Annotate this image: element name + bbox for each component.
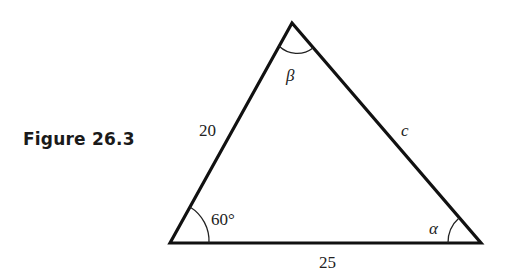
angle-arc-alpha xyxy=(448,218,459,243)
angle-arc-beta xyxy=(279,46,313,53)
angle-label-beta: β xyxy=(285,66,295,85)
side-label-bottom: 25 xyxy=(319,253,336,272)
side-label-right: c xyxy=(401,121,409,140)
angle-arc-60 xyxy=(190,207,209,243)
side-label-left: 20 xyxy=(199,121,216,140)
angle-label-alpha: α xyxy=(429,219,439,238)
angle-label-60: 60° xyxy=(211,210,235,229)
triangle-diagram: 20 c 25 60° β α xyxy=(0,0,509,280)
